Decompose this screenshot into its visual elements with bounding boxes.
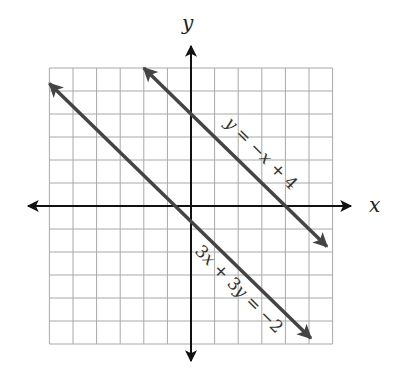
line-3x-plus-3y-equals-neg-2 [49, 83, 310, 338]
line-y-equals-neg-x-plus-4 [144, 68, 327, 246]
y-axis-label: y [181, 11, 194, 35]
coordinate-graph: y x y = −x + 4 3x + 3y = −2 [0, 0, 401, 380]
equation-label-2: 3x + 3y = −2 [191, 241, 287, 337]
x-axis-label: x [369, 193, 380, 217]
